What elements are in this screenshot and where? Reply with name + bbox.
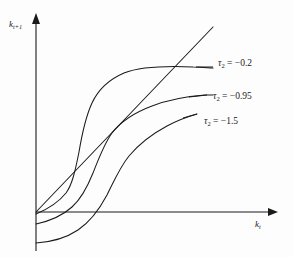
x-axis-label-subscript: t [259, 223, 261, 230]
curve-label-tau2-minus-0-95: τ2 = −0.95 [213, 91, 252, 102]
phase-diagram-figure: kt+1 kt τ2 = −0.2 τ2 = −0.95 τ2 = −1.5 [0, 0, 293, 257]
x-axis-arrow-icon [268, 208, 278, 216]
y-axis-arrow-icon [32, 13, 40, 24]
x-axis [36, 208, 278, 216]
y-axis-label-subscript: t+1 [13, 23, 22, 30]
y-axis [32, 13, 40, 251]
leader-line-tau2-minus-1-5 [183, 114, 197, 118]
curve-tau2-minus-1-5 [36, 114, 197, 243]
curve-label-tau2-minus-1-5: τ2 = −1.5 [204, 116, 238, 127]
y-axis-label: kt+1 [9, 19, 22, 30]
curve-label-value-3: = −1.5 [211, 116, 239, 126]
x-axis-label: kt [255, 219, 261, 230]
reference-line-45deg [36, 27, 213, 212]
curve-label-value-1: = −0.2 [225, 58, 253, 68]
curve-label-tau2-minus-0-2: τ2 = −0.2 [218, 58, 252, 69]
curve-label-value-2: = −0.95 [220, 91, 252, 101]
curve-tau2-minus-0-95 [36, 95, 213, 224]
curve-tau2-minus-0-2 [36, 67, 213, 214]
